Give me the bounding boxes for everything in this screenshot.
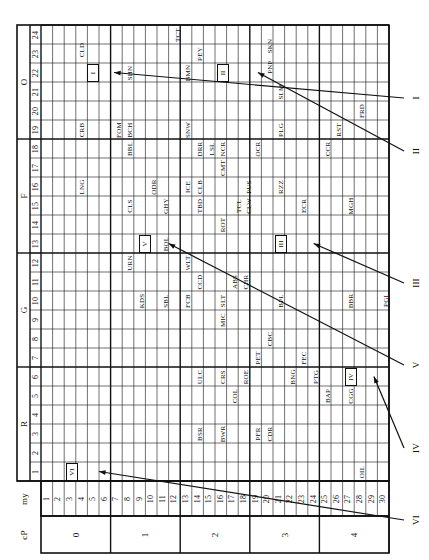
entry-odr: ODR — [150, 179, 157, 194]
entry-cld: CLD — [78, 42, 85, 57]
marker-box-i: I — [87, 64, 99, 82]
row-number: 24 — [310, 494, 318, 502]
entry-cgg: CGG — [347, 388, 354, 403]
entry-pgi: PGI — [382, 295, 389, 307]
row-number: 13 — [182, 494, 190, 502]
row-group-cell: 3 — [280, 532, 289, 537]
entry-plg: PLG — [278, 123, 285, 137]
entry-col: COL — [231, 388, 238, 403]
marker-label-iv: IV — [412, 443, 421, 453]
entry-crb: CRB — [78, 122, 85, 137]
column-number: 11 — [32, 277, 40, 285]
column-number: 21 — [32, 87, 40, 95]
column-group-header: F — [19, 193, 28, 198]
entry-tbd: TBD — [196, 198, 203, 213]
row-number: 12 — [170, 494, 178, 502]
row-number: 23 — [298, 494, 306, 502]
marker-box-iii: III — [275, 235, 287, 253]
row-number: 22 — [286, 494, 294, 502]
row-number: 5 — [89, 496, 97, 500]
entry-kds: KDS — [138, 293, 145, 308]
entry-oil: OIL — [359, 465, 366, 477]
entry-pey: PEY — [196, 47, 203, 61]
entry-roe: ROE — [243, 369, 250, 384]
entry-bol: BOL — [163, 236, 170, 251]
entry-sbl: SBL — [163, 294, 170, 307]
column-number: 19 — [32, 125, 40, 133]
row-group-cell: 0 — [71, 532, 80, 537]
row-number: 8 — [124, 496, 132, 500]
entry-ecr: ECR — [301, 198, 308, 212]
row-group-cell: 2 — [211, 532, 220, 537]
column-number: 18 — [32, 144, 40, 152]
entry-lng: LNG — [78, 179, 85, 194]
row-number: 20 — [263, 494, 271, 502]
entry-cmt: CMT — [220, 160, 227, 176]
column-number: 14 — [32, 220, 40, 228]
row-number: 30 — [379, 494, 387, 502]
entry-abs: ABS — [231, 274, 238, 288]
group-axis-label: cP — [20, 530, 29, 539]
row-axis-label: my — [20, 493, 29, 505]
row-group-cell: 4 — [350, 532, 359, 537]
column-number: 12 — [32, 258, 40, 266]
column-number: 15 — [32, 201, 40, 209]
row-number: 4 — [78, 496, 86, 500]
row-number: 1 — [43, 496, 51, 500]
entry-bbl: BBL — [127, 141, 134, 155]
entry-mic: MIC — [220, 313, 227, 327]
entry-ccr: CCR — [324, 141, 331, 156]
row-number: 14 — [194, 494, 202, 502]
column-number: 23 — [32, 49, 40, 57]
entry-bbr: BBR — [347, 293, 354, 308]
row-number: 26 — [333, 494, 341, 502]
column-number: 10 — [32, 296, 40, 304]
entry-fom: FOM — [115, 122, 122, 138]
entry-rzz: RZZ — [278, 180, 285, 194]
column-group-header: O — [19, 79, 28, 86]
column-number: 16 — [32, 182, 40, 190]
row-number: 16 — [217, 494, 225, 502]
row-number: 11 — [159, 494, 167, 502]
marker-box-v: V — [139, 235, 151, 253]
entry-slt: SLT — [220, 294, 227, 306]
entry-cls: CLS — [127, 199, 134, 212]
marker-label-ii: II — [412, 148, 421, 154]
entry-pus: PUS — [245, 180, 252, 193]
marker-label-vi: VI — [412, 515, 421, 525]
entry-bng: BNG — [289, 369, 296, 384]
entry-urn: URN — [127, 255, 134, 270]
column-number: 1 — [32, 469, 40, 473]
row-number: 21 — [275, 494, 283, 502]
entry-mgh: MGH — [347, 197, 354, 214]
entry-ncr: NCR — [220, 141, 227, 156]
entry-fcb: FCB — [185, 294, 192, 308]
marker-box-iv: IV — [345, 368, 357, 386]
marker-box-vi: VI — [66, 463, 78, 481]
entry-ptg: PTG — [312, 370, 319, 384]
entry-frd: FRD — [359, 103, 366, 117]
entry-tct: TCT — [174, 28, 181, 42]
entry-wlt: WLT — [185, 255, 192, 270]
entry-ghy: GHY — [163, 198, 170, 214]
column-number: 13 — [32, 239, 40, 247]
entry-tcl: TCL — [236, 199, 243, 213]
row-number: 29 — [368, 494, 376, 502]
column-number: 6 — [32, 374, 40, 378]
entry-pet: PET — [254, 351, 261, 364]
column-number: 9 — [32, 317, 40, 321]
marker-label-iii: III — [412, 278, 421, 288]
column-number: 22 — [32, 68, 40, 76]
entry-fec: FEC — [301, 351, 308, 364]
entry-snw: SNW — [185, 121, 192, 137]
entry-ocr: OCR — [254, 141, 261, 156]
entry-rot: ROT — [220, 217, 227, 232]
row-number: 18 — [240, 494, 248, 502]
entry-cbc: CBC — [266, 331, 273, 346]
entry-pnp: PNP — [266, 60, 273, 73]
row-number: 9 — [136, 496, 144, 500]
entry-ccd: CCD — [196, 274, 203, 289]
row-number: 19 — [252, 494, 260, 502]
row-number: 3 — [66, 496, 74, 500]
row-number: 28 — [356, 494, 364, 502]
